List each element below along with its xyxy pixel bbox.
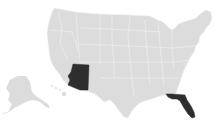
state-florida[interactable] [166, 94, 195, 118]
contiguous-us [47, 8, 212, 118]
alaska-aleutians [2, 108, 14, 114]
us-map: United States map [0, 0, 215, 124]
state-alaska [6, 76, 50, 112]
state-hawaii [51, 85, 66, 96]
